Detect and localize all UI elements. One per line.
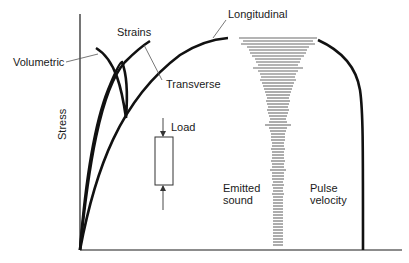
longitudinal-label: Longitudinal: [228, 8, 287, 21]
emitted-sound-bars: [239, 38, 317, 245]
transverse-label: Transverse: [166, 78, 221, 91]
strains-label: Strains: [117, 26, 151, 39]
emitted-sound-label-2: sound: [223, 194, 253, 207]
y-axis-label: Stress: [56, 109, 68, 140]
longitudinal-leader: [213, 20, 226, 38]
volumetric-label: Volumetric: [13, 56, 64, 69]
transverse-leader: [144, 45, 162, 80]
load-specimen: [155, 137, 173, 185]
load-arrow-bottom-icon: [160, 185, 166, 191]
longitudinal-curve: [80, 38, 228, 250]
pulse-velocity-label-2: velocity: [310, 194, 347, 207]
load-label: Load: [171, 121, 195, 134]
volumetric-leader: [66, 54, 98, 62]
pulse-velocity-curve: [318, 40, 363, 250]
load-arrow-top-icon: [160, 131, 166, 137]
